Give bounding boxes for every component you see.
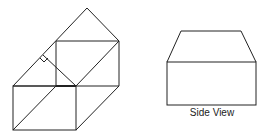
- lower-front-diagonal: [13, 86, 56, 130]
- isometric-figure: [13, 8, 119, 130]
- side-view-trapezoid: [167, 31, 256, 62]
- diagram-canvas: [0, 0, 270, 139]
- roof-ridge: [13, 8, 119, 86]
- side-view-box: [167, 62, 256, 105]
- right-angle-marker: [40, 58, 48, 62]
- upper-diagonal: [76, 41, 119, 86]
- lower-front-face: [13, 86, 76, 130]
- lower-right-slant: [76, 86, 119, 130]
- roof-face-edge: [43, 55, 76, 86]
- side-view-figure: [167, 31, 256, 105]
- side-view-label: Side View: [181, 107, 243, 118]
